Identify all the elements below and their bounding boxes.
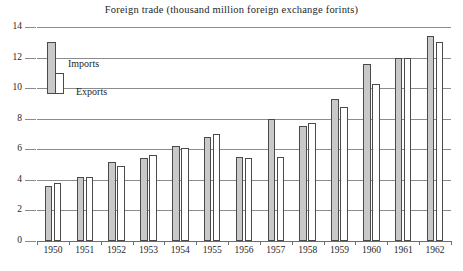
y-tick-label-0: 0: [0, 236, 22, 246]
x-axis-label-1961: 1961: [387, 245, 419, 255]
y-tick-dash-14: [25, 27, 36, 28]
y-tick-label-4: 4: [0, 175, 22, 185]
bar-exports-1960: [372, 84, 380, 241]
bar-imports-1956: [236, 157, 244, 241]
y-tick-label-8: 8: [0, 114, 22, 124]
bar-imports-1951: [77, 177, 85, 241]
bar-exports-1957: [277, 157, 285, 241]
y-tick-label-6: 6: [0, 144, 22, 154]
foreign-trade-bar-chart: Foreign trade (thousand million foreign …: [0, 0, 463, 271]
x-axis-label-1953: 1953: [133, 245, 165, 255]
bar-imports-1958: [299, 126, 307, 241]
bar-imports-1950: [45, 186, 53, 241]
bar-exports-1952: [117, 166, 125, 241]
plot-area: ImportsExports: [37, 27, 451, 241]
bar-imports-1954: [172, 146, 180, 241]
y-tick-label-12: 12: [0, 53, 22, 63]
y-tick-dash-2: [25, 210, 36, 211]
bar-exports-1958: [308, 123, 316, 241]
x-axis-label-1962: 1962: [419, 245, 451, 255]
x-axis-label-1960: 1960: [355, 245, 387, 255]
x-axis-label-1957: 1957: [260, 245, 292, 255]
gridline-14: [37, 27, 451, 28]
gridline-8: [37, 119, 451, 120]
bar-imports-1960: [363, 64, 371, 241]
bar-exports-1951: [86, 177, 94, 241]
gridline-12: [37, 58, 451, 59]
x-axis-label-1958: 1958: [292, 245, 324, 255]
legend-label-imports: Imports: [68, 59, 99, 69]
y-tick-dash-0: [25, 241, 36, 242]
x-axis-label-1952: 1952: [101, 245, 133, 255]
bar-imports-1962: [427, 36, 435, 241]
bar-imports-1953: [140, 158, 148, 241]
bar-exports-1956: [245, 158, 253, 241]
bar-imports-1955: [204, 137, 212, 241]
bar-exports-1953: [149, 155, 157, 241]
bar-exports-1954: [181, 148, 189, 241]
x-axis-label-1954: 1954: [164, 245, 196, 255]
bar-imports-1952: [108, 162, 116, 241]
bar-exports-1959: [340, 107, 348, 242]
legend-swatch-imports: [47, 42, 56, 94]
bar-exports-1950: [54, 183, 62, 241]
chart-title: Foreign trade (thousand million foreign …: [0, 4, 463, 15]
y-tick-dash-10: [25, 88, 36, 89]
y-tick-dash-6: [25, 149, 36, 150]
bar-imports-1961: [395, 58, 403, 241]
gridline-0: [37, 241, 451, 242]
y-tick-dash-8: [25, 119, 36, 120]
bar-imports-1959: [331, 99, 339, 241]
gridline-6: [37, 149, 451, 150]
x-axis-label-1950: 1950: [37, 245, 69, 255]
x-axis-label-1955: 1955: [196, 245, 228, 255]
y-tick-dash-4: [25, 180, 36, 181]
y-tick-label-14: 14: [0, 22, 22, 32]
gridline-10: [37, 88, 451, 89]
bar-imports-1957: [268, 119, 276, 241]
y-tick-label-10: 10: [0, 83, 22, 93]
x-axis-label-1956: 1956: [228, 245, 260, 255]
legend-swatch-exports: [55, 73, 64, 94]
x-axis-label-1951: 1951: [69, 245, 101, 255]
x-tick-end: [451, 241, 452, 245]
bar-exports-1962: [436, 42, 444, 241]
y-tick-dash-12: [25, 58, 36, 59]
bar-exports-1955: [213, 134, 221, 241]
bar-exports-1961: [404, 58, 412, 241]
y-tick-label-2: 2: [0, 205, 22, 215]
x-axis-label-1959: 1959: [324, 245, 356, 255]
